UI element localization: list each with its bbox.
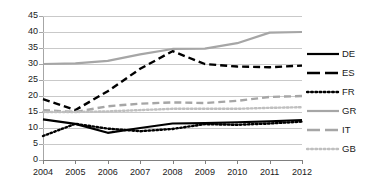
legend-item-it[interactable]: IT (306, 120, 370, 139)
x-tick-label: 2006 (91, 167, 125, 177)
x-tick-mark (302, 160, 303, 164)
y-tick-label: 15 (14, 107, 38, 116)
y-tick-mark (39, 128, 43, 129)
y-tick-label: 45 (14, 11, 38, 20)
legend-item-gb[interactable]: GB (306, 139, 370, 158)
y-tick-label: 0 (14, 155, 38, 164)
legend-label: IT (340, 125, 350, 135)
series-layer (43, 16, 302, 160)
series-line-es (43, 51, 302, 110)
y-tick-mark (39, 48, 43, 49)
y-tick-label: 25 (14, 75, 38, 84)
legend-item-fr[interactable]: FR (306, 82, 370, 101)
legend-label: DE (340, 49, 355, 59)
legend-swatch-it (306, 124, 340, 135)
y-tick-mark (39, 64, 43, 65)
legend-swatch-es (306, 67, 340, 78)
x-tick-mark (173, 160, 174, 164)
series-line-gr (43, 32, 302, 64)
chart-legend: DEESFRGRITGB (306, 44, 370, 158)
x-tick-label: 2005 (58, 167, 92, 177)
y-tick-mark (39, 32, 43, 33)
x-tick-mark (75, 160, 76, 164)
legend-label: GR (340, 106, 356, 116)
y-tick-mark (39, 112, 43, 113)
y-tick-label: 20 (14, 91, 38, 100)
legend-swatch-de (306, 48, 340, 59)
y-tick-mark (39, 16, 43, 17)
x-tick-label: 2007 (123, 167, 157, 177)
legend-item-es[interactable]: ES (306, 63, 370, 82)
legend-label: FR (340, 87, 355, 97)
x-tick-label: 2004 (26, 167, 60, 177)
legend-swatch-fr (306, 86, 340, 97)
y-tick-label: 30 (14, 59, 38, 68)
x-tick-mark (43, 160, 44, 164)
legend-item-de[interactable]: DE (306, 44, 370, 63)
legend-label: GB (340, 144, 356, 154)
x-tick-label: 2008 (156, 167, 190, 177)
y-tick-label: 10 (14, 123, 38, 132)
x-tick-label: 2012 (285, 167, 319, 177)
y-tick-mark (39, 144, 43, 145)
x-tick-label: 2011 (253, 167, 287, 177)
x-tick-label: 2009 (188, 167, 222, 177)
x-tick-label: 2010 (220, 167, 254, 177)
y-tick-mark (39, 80, 43, 81)
x-tick-mark (270, 160, 271, 164)
x-tick-mark (205, 160, 206, 164)
y-tick-mark (39, 96, 43, 97)
x-tick-mark (140, 160, 141, 164)
legend-swatch-gb (306, 143, 340, 154)
series-line-de (43, 119, 302, 132)
legend-label: ES (340, 68, 355, 78)
y-tick-label: 40 (14, 27, 38, 36)
line-chart: 051015202530354045 200420052006200720082… (0, 0, 372, 195)
legend-swatch-gr (306, 105, 340, 116)
legend-item-gr[interactable]: GR (306, 101, 370, 120)
x-tick-mark (237, 160, 238, 164)
y-tick-label: 5 (14, 139, 38, 148)
y-tick-label: 35 (14, 43, 38, 52)
x-tick-mark (108, 160, 109, 164)
